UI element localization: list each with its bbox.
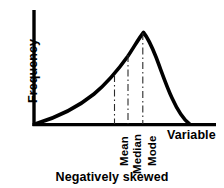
tick-label-mean: Mean bbox=[119, 136, 131, 166]
negatively-skewed-distribution-figure: Frequency Mean Median Mode Variable Nega… bbox=[0, 0, 224, 188]
figure-caption: Negatively skewed bbox=[0, 171, 224, 184]
y-axis-label: Frequency bbox=[27, 39, 40, 103]
x-axis-label: Variable bbox=[167, 129, 216, 142]
tick-label-mode: Mode bbox=[147, 136, 159, 166]
distribution-curve bbox=[37, 33, 190, 125]
tick-label-median: Median bbox=[132, 134, 144, 174]
